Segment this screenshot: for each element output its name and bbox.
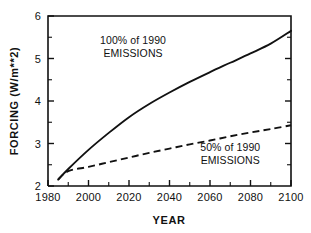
annotation-upper-line1: 100% of 1990	[100, 34, 166, 46]
forcing-chart-figure: 23456 1980200020202040206020802100 100% …	[0, 0, 311, 233]
y-tick-label: 6	[35, 10, 41, 22]
x-axis-title: YEAR	[153, 214, 186, 226]
x-tick-label: 2020	[116, 191, 141, 203]
annotation-upper-line2: EMISSIONS	[103, 47, 162, 59]
y-tick-label: 5	[35, 53, 41, 65]
x-tick-label: 2080	[238, 191, 263, 203]
y-tick-label: 4	[35, 95, 41, 107]
x-tick-label: 2060	[197, 191, 222, 203]
annotation-lower-line1: 50% of 1990	[200, 141, 260, 153]
x-tick-label: 2040	[157, 191, 182, 203]
x-tick-label: 2000	[76, 191, 101, 203]
annotation-lower: 50% of 1990 EMISSIONS	[200, 141, 260, 166]
annotation-lower-line2: EMISSIONS	[201, 154, 260, 166]
x-tick-label: 1980	[35, 191, 60, 203]
y-tick-label: 3	[35, 138, 41, 150]
annotation-upper: 100% of 1990 EMISSIONS	[100, 34, 166, 59]
chart-svg: 23456 1980200020202040206020802100 100% …	[0, 0, 311, 233]
x-tick-label: 2100	[278, 191, 303, 203]
y-axis-title: FORCING (W/m**2)	[8, 47, 20, 156]
